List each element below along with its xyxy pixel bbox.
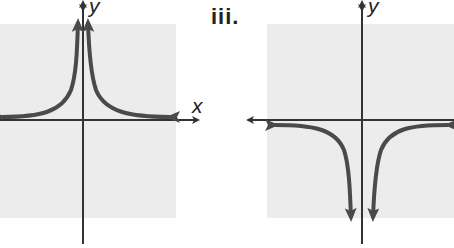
figure-label-iii: iii. [211, 4, 239, 30]
y-axis-label: y [89, 0, 100, 18]
x-axis-label: x [192, 94, 203, 118]
left-graph-svg [0, 0, 230, 248]
y-axis-label: y [368, 0, 379, 18]
right-graph: y [240, 0, 454, 248]
left-graph: y x [0, 0, 230, 248]
right-graph-svg [240, 0, 454, 248]
